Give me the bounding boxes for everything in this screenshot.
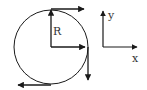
circular-motion-diagram: R y x xyxy=(0,0,147,90)
radius-label: R xyxy=(53,25,62,38)
y-axis-label: y xyxy=(107,9,115,22)
x-axis-label: x xyxy=(132,52,139,65)
